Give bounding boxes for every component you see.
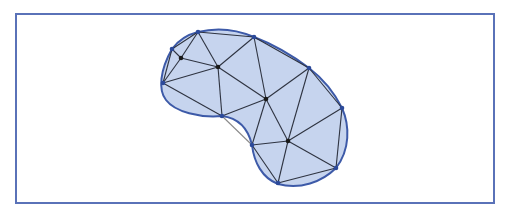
interior-node: [216, 65, 221, 70]
boundary-node: [276, 181, 281, 186]
boundary-node: [250, 143, 255, 148]
interior-node: [286, 139, 291, 144]
boundary-node: [161, 81, 166, 86]
boundary-node: [252, 35, 257, 40]
mesh-diagram: [0, 0, 507, 211]
boundary-node: [220, 114, 225, 119]
interior-node: [264, 97, 269, 102]
boundary-node: [196, 30, 201, 35]
boundary-node: [340, 106, 345, 111]
interior-node: [179, 56, 184, 61]
boundary-node: [170, 47, 175, 52]
boundary-node: [334, 166, 339, 171]
curved-region: [161, 29, 347, 186]
boundary-node: [307, 66, 312, 71]
